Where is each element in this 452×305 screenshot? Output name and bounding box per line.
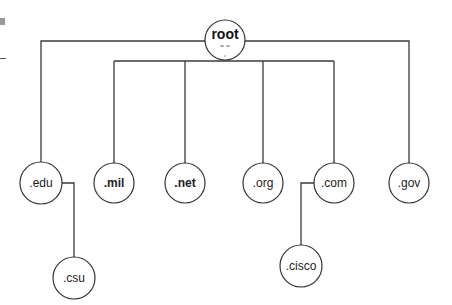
node-label: .csu bbox=[63, 271, 85, 285]
node-label: .org bbox=[253, 176, 274, 190]
node-label: .cisco bbox=[286, 259, 317, 273]
edge-root-edu bbox=[41, 41, 205, 162]
node-csu: .csu bbox=[53, 257, 95, 299]
node-mil: .mil bbox=[94, 163, 134, 203]
node-org: .org bbox=[243, 163, 283, 203]
node-com: .com bbox=[314, 163, 354, 203]
node-net: .net bbox=[165, 163, 205, 203]
edge-root-gov bbox=[245, 41, 409, 163]
node-label: .com bbox=[321, 176, 347, 190]
node-label: .edu bbox=[29, 176, 52, 190]
node-label: .net bbox=[174, 176, 195, 190]
edge-com-cisco bbox=[301, 183, 314, 245]
dns-tree-diagram: root " " .edu .mil .net .org .com .gov .… bbox=[0, 0, 452, 305]
node-label: .mil bbox=[104, 176, 125, 190]
connectors bbox=[41, 41, 409, 257]
root-sublabel: " " bbox=[221, 43, 230, 53]
edge-edu-csu bbox=[62, 183, 74, 257]
root-label: root bbox=[211, 26, 239, 42]
node-edu: .edu bbox=[20, 162, 62, 204]
node-gov: .gov bbox=[389, 163, 429, 203]
node-root: root " " bbox=[205, 20, 245, 60]
node-cisco: .cisco bbox=[280, 245, 322, 287]
node-label: .gov bbox=[398, 176, 421, 190]
